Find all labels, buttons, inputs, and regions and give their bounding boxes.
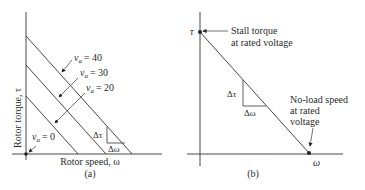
a-label-va-30: va= 30 <box>80 67 108 80</box>
a-leader-40 <box>62 60 72 72</box>
b-stall-label-2: at rated voltage <box>231 37 293 48</box>
b-delta-omega: Δω <box>244 108 256 118</box>
a-label-va-20: va= 20 <box>86 82 114 95</box>
a-leader-30 <box>59 78 78 97</box>
b-noload-label-2: at rated <box>290 105 320 116</box>
b-noload-label-1: No-load speed <box>290 94 348 105</box>
b-delta-tau: Δτ <box>227 89 237 99</box>
b-noload-point <box>307 151 311 155</box>
a-x-axis-label: Rotor speed, ω <box>60 156 120 167</box>
b-stall-point <box>198 30 202 34</box>
b-torque-speed-line <box>200 32 309 153</box>
diagram-a: va= 40 va= 30 va= 20 va= 0 Δτ Δω Rotor t… <box>12 12 162 180</box>
a-caption: (a) <box>84 168 95 180</box>
b-noload-leader <box>310 128 313 146</box>
a-y-axis-label: Rotor torque, τ <box>12 88 23 148</box>
b-caption: (b) <box>247 168 259 180</box>
a-label-va-0: va= 0 <box>32 131 55 144</box>
b-noload-label-3: voltage <box>290 116 320 127</box>
a-leader-0 <box>29 146 36 152</box>
a-leader-20 <box>55 93 85 123</box>
b-stall-label-1: Stall torque <box>231 25 278 36</box>
a-line-va-20 <box>26 96 78 154</box>
a-origin-point <box>24 152 28 156</box>
diagram-b: τ ω Stall torque at rated voltage No-loa… <box>187 12 348 180</box>
a-delta-omega: Δω <box>108 144 120 154</box>
a-label-va-40: va= 40 <box>74 52 102 65</box>
torque-speed-diagrams: va= 40 va= 30 va= 20 va= 0 Δτ Δω Rotor t… <box>0 0 365 190</box>
a-delta-tau: Δτ <box>93 130 103 140</box>
b-omega-symbol: ω <box>313 157 320 168</box>
b-tau-symbol: τ <box>190 26 194 37</box>
